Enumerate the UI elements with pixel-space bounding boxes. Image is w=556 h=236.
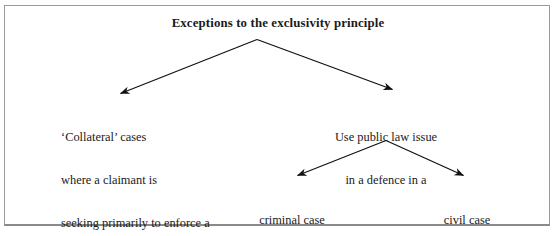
node-civil-case: civil case (Winder) — [412, 185, 522, 236]
node-criminal-case: criminal case (Boddington) — [222, 185, 362, 236]
node-civil-line-1: civil case — [412, 213, 522, 227]
node-collateral-line-2: where a claimant is — [61, 173, 210, 187]
diagram-screenshot: Exceptions to the exclusivity principle … — [0, 0, 556, 236]
node-collateral-cases: ‘Collateral’ cases where a claimant is s… — [61, 102, 210, 236]
node-criminal-line-1: criminal case — [222, 213, 362, 227]
diagram-title: Exceptions to the exclusivity principle — [0, 16, 556, 30]
node-collateral-line-3: seeking primarily to enforce a — [61, 216, 210, 230]
node-collateral-line-1: ‘Collateral’ cases — [61, 130, 210, 144]
node-public-law-line-1: Use public law issue — [286, 130, 486, 144]
